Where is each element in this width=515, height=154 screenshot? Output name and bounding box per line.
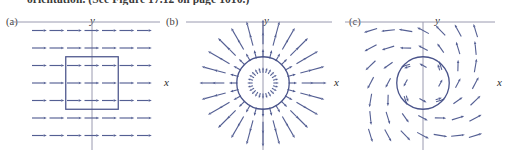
panel-a: (a) y x <box>0 0 180 154</box>
panel-a-plot <box>0 0 180 154</box>
panel-b: (b) y x <box>160 0 340 154</box>
panel-b-axes <box>186 22 332 150</box>
panel-a-axes <box>12 22 160 150</box>
panel-a-svg <box>0 0 180 154</box>
panel-c: (c) y x <box>335 0 515 154</box>
panel-b-svg <box>160 0 340 154</box>
vector-field-figure: orientation. (See Figure 17.12 on page 1… <box>0 0 515 154</box>
panel-b-plot <box>160 0 340 154</box>
panel-c-plot <box>335 0 515 154</box>
panel-c-svg <box>335 0 515 154</box>
panel-c-axes <box>345 22 495 150</box>
